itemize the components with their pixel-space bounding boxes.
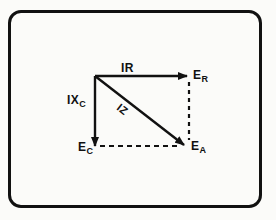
er-label-sub: R — [202, 74, 209, 84]
phasor-diagram — [0, 0, 276, 220]
er-point-label: ER — [193, 69, 209, 84]
er-label-main: E — [193, 68, 202, 82]
iz-vector — [95, 76, 184, 145]
ea-point-label: EA — [191, 140, 207, 155]
ea-label-main: E — [191, 139, 200, 153]
ec-label-sub: C — [87, 146, 94, 156]
ixc-label-main: IX — [67, 93, 79, 107]
ir-label: IR — [121, 62, 134, 74]
ec-point-label: EC — [78, 141, 94, 156]
ixc-label: IXC — [67, 94, 86, 109]
ea-label-sub: A — [200, 145, 207, 155]
ixc-label-sub: C — [79, 99, 86, 109]
ec-label-main: E — [78, 140, 87, 154]
